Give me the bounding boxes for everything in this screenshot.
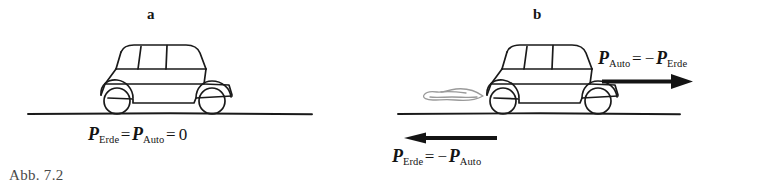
car-a <box>101 45 232 114</box>
momentum-symbol: P <box>656 48 667 68</box>
car-b-window-divider-1 <box>524 47 527 70</box>
arrow-auto-right-icon <box>602 74 693 89</box>
equation-p-auto-equals-minus-p-erde: PAuto=−PErde <box>598 48 687 69</box>
subscript-auto: Auto <box>460 156 481 167</box>
car-b-sill <box>494 96 618 103</box>
car-b-window-divider-2 <box>552 46 553 70</box>
panel-label-a: a <box>147 6 155 23</box>
car-a-window-divider-2 <box>166 46 167 70</box>
equation-p-erde-equals-minus-p-auto: PErde=−PAuto <box>392 146 481 167</box>
momentum-symbol: P <box>88 124 99 144</box>
momentum-symbol: P <box>392 146 403 166</box>
equals-sign: = <box>630 49 643 68</box>
subscript-auto: Auto <box>143 134 164 145</box>
car-b-front-wheel <box>585 88 611 114</box>
car-a-rear-panel <box>101 84 105 95</box>
car-a-sill <box>108 96 232 103</box>
ground-line-b <box>398 113 680 114</box>
car-b-front-end <box>590 84 618 95</box>
car-a-front-end <box>204 84 232 95</box>
subscript-erde: Erde <box>667 58 687 69</box>
momentum-symbol: P <box>132 124 143 144</box>
equals-sign: = <box>164 125 177 144</box>
car-a-front-wheel <box>199 88 225 114</box>
subscript-erde: Erde <box>99 134 119 145</box>
exhaust-cloud-icon <box>424 89 483 101</box>
subscript-erde: Erde <box>403 156 423 167</box>
equals-sign: = <box>423 147 436 166</box>
car-b-front-wheel-arch <box>582 81 617 98</box>
momentum-symbol: P <box>449 146 460 166</box>
ground-line-a <box>28 113 312 114</box>
zero-value: 0 <box>177 125 189 144</box>
car-a-front-wheel-arch <box>196 81 231 98</box>
car-a-window-divider-1 <box>138 47 141 70</box>
car-a-roof <box>121 45 206 69</box>
car-b-hood-top <box>491 69 592 84</box>
car-a-rear-wheel-arch <box>101 80 133 98</box>
panel-label-b: b <box>533 6 541 23</box>
minus-sign: − <box>436 147 449 166</box>
figure-abb-7-2: a <box>0 0 760 195</box>
car-a-a-pillar <box>116 52 121 69</box>
momentum-symbol: P <box>598 48 609 68</box>
arrow-erde-left-icon <box>404 133 497 144</box>
figure-linework <box>0 0 760 195</box>
car-a-hood-top <box>105 69 206 84</box>
car-b-a-pillar <box>502 52 507 69</box>
minus-sign: − <box>643 49 656 68</box>
car-b-roof <box>507 45 592 69</box>
subscript-auto: Auto <box>609 58 630 69</box>
car-b-rear-wheel-arch <box>487 80 519 98</box>
car-a-rear-wheel <box>104 88 130 114</box>
equation-p-erde-equals-p-auto-equals-zero: PErde=PAuto=0 <box>88 124 189 145</box>
car-b-rear-wheel <box>490 88 516 114</box>
equals-sign: = <box>119 125 132 144</box>
figure-caption: Abb. 7.2 <box>9 167 63 184</box>
car-b-rear-panel <box>487 84 491 95</box>
